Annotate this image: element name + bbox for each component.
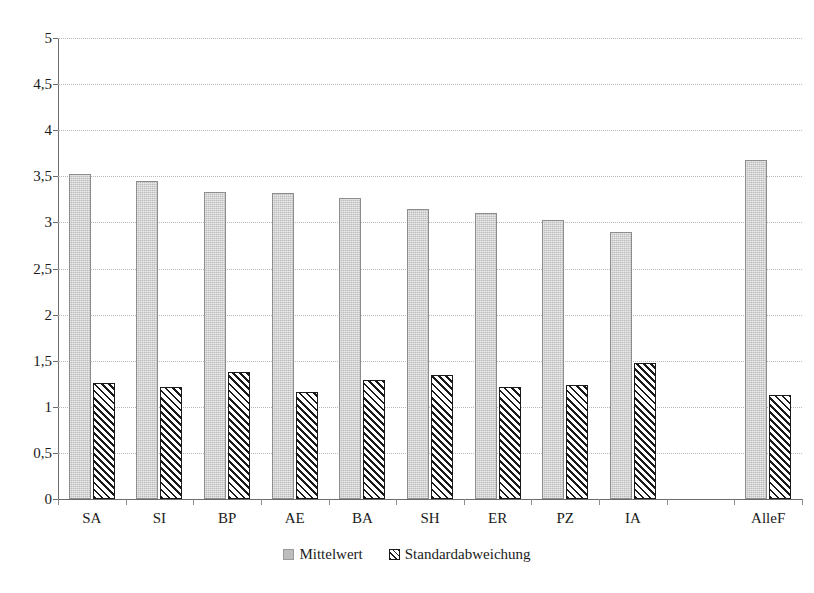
bar-chart-figure: 54,543,532,521,510,50 SASIBPAEBASHERPZIA…	[0, 0, 814, 593]
x-axis-tick-label: IA	[593, 510, 673, 527]
bar-mittelwert	[136, 181, 158, 499]
plot-area	[58, 38, 802, 499]
bar-standardabweichung	[566, 385, 588, 499]
bar-group	[407, 38, 453, 499]
bar-group	[542, 38, 588, 499]
bar-mittelwert	[475, 213, 497, 499]
x-axis-tick-mark	[329, 499, 330, 505]
filled-gray-square-icon	[283, 549, 294, 560]
bar-hatch-texture	[432, 376, 452, 498]
bar-mittelwert	[204, 192, 226, 499]
chart-title	[0, 0, 814, 4]
x-axis-tick-mark	[126, 499, 127, 505]
bar-fill-texture	[746, 161, 766, 498]
x-axis-tick-mark	[464, 499, 465, 505]
bar-hatch-texture	[161, 388, 181, 498]
bar-group	[745, 38, 791, 499]
x-axis-tick-mark	[531, 499, 532, 505]
x-axis-tick-mark	[599, 499, 600, 505]
bar-mittelwert	[407, 209, 429, 499]
x-axis-tick-mark	[734, 499, 735, 505]
bar-standardabweichung	[499, 387, 521, 499]
bar-standardabweichung	[296, 392, 318, 499]
legend-item: Mittelwert	[283, 546, 362, 563]
bar-hatch-texture	[364, 381, 384, 498]
bar-group	[339, 38, 385, 499]
bar-hatch-texture	[635, 364, 655, 498]
bar-group	[272, 38, 318, 499]
bar-fill-texture	[408, 210, 428, 498]
bar-mittelwert	[610, 232, 632, 499]
bar-group	[69, 38, 115, 499]
bar-mittelwert	[272, 193, 294, 499]
bar-fill-texture	[205, 193, 225, 498]
bar-group	[610, 38, 656, 499]
bar-standardabweichung	[634, 363, 656, 499]
bar-fill-texture	[273, 194, 293, 498]
x-axis-tick-label: AlleF	[728, 510, 808, 527]
legend-item: Standardabweichung	[389, 546, 531, 563]
x-axis-line	[58, 499, 802, 500]
hatched-square-icon	[389, 549, 400, 560]
bar-standardabweichung	[431, 375, 453, 499]
x-axis-tick-mark	[261, 499, 262, 505]
bar-standardabweichung	[160, 387, 182, 499]
x-axis-tick-mark	[396, 499, 397, 505]
bar-fill-texture	[543, 221, 563, 498]
bar-standardabweichung	[769, 395, 791, 499]
bar-group	[204, 38, 250, 499]
x-axis-tick-mark	[667, 499, 668, 505]
chart-legend: MittelwertStandardabweichung	[0, 546, 814, 563]
bar-fill-texture	[611, 233, 631, 498]
bar-fill-texture	[70, 175, 90, 498]
bar-hatch-texture	[94, 384, 114, 498]
bar-hatch-texture	[229, 373, 249, 498]
bar-standardabweichung	[228, 372, 250, 499]
bar-group	[475, 38, 521, 499]
legend-item-label: Mittelwert	[299, 546, 362, 563]
x-axis-tick-mark	[193, 499, 194, 505]
bar-standardabweichung	[93, 383, 115, 499]
bar-hatch-texture	[500, 388, 520, 498]
bar-hatch-texture	[567, 386, 587, 498]
bar-fill-texture	[476, 214, 496, 498]
bar-fill-texture	[340, 199, 360, 498]
bar-mittelwert	[542, 220, 564, 499]
x-axis-tick-mark	[58, 499, 59, 505]
y-axis-tick-marks	[0, 38, 58, 499]
bar-standardabweichung	[363, 380, 385, 499]
bar-hatch-texture	[770, 396, 790, 498]
x-axis-tick-mark	[802, 499, 803, 505]
bar-mittelwert	[339, 198, 361, 499]
bar-mittelwert	[69, 174, 91, 499]
legend-item-label: Standardabweichung	[405, 546, 531, 563]
bar-group	[678, 38, 724, 499]
bar-mittelwert	[745, 160, 767, 499]
bar-group	[136, 38, 182, 499]
bar-fill-texture	[137, 182, 157, 498]
x-axis: SASIBPAEBASHERPZIAAlleF	[58, 499, 802, 543]
bar-hatch-texture	[297, 393, 317, 498]
